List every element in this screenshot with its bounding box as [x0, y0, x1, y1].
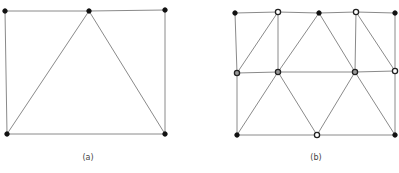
figure-b: (b) [233, 9, 398, 162]
edge [278, 72, 317, 135]
node-filled-icon [393, 11, 397, 15]
edge [89, 10, 165, 11]
figure-b-caption: (b) [310, 153, 321, 162]
figure-a-edges [5, 10, 165, 134]
edge [355, 12, 356, 72]
edge [235, 13, 237, 73]
node-gray-icon [352, 69, 357, 74]
node-filled-icon [87, 9, 91, 13]
node-filled-icon [5, 132, 9, 136]
edge [5, 11, 7, 134]
edge [278, 12, 319, 13]
edge [319, 12, 356, 13]
edge [237, 72, 278, 135]
edge [278, 13, 319, 72]
edge [237, 12, 278, 73]
edge [355, 72, 395, 135]
edge [235, 12, 278, 13]
figure-b-edges [235, 12, 395, 135]
node-open-icon [275, 9, 280, 14]
node-gray-icon [275, 69, 280, 74]
node-filled-icon [317, 11, 321, 15]
figure-a: (a) [3, 8, 167, 162]
edge [355, 71, 395, 72]
figure-a-nodes [3, 8, 167, 136]
diagram-canvas: (a) (b) [0, 0, 399, 173]
edge [89, 11, 165, 134]
figure-a-caption: (a) [82, 153, 93, 162]
node-open-icon [392, 68, 397, 73]
edge [237, 72, 278, 73]
edge [317, 72, 355, 135]
node-filled-icon [163, 132, 167, 136]
edge [356, 12, 395, 71]
edge [319, 13, 355, 72]
node-filled-icon [3, 9, 7, 13]
edge [356, 12, 395, 13]
node-filled-icon [233, 11, 237, 15]
node-gray-icon [234, 70, 239, 75]
node-filled-icon [163, 8, 167, 12]
node-filled-icon [235, 133, 239, 137]
edge [7, 11, 89, 134]
figure-b-nodes [233, 9, 398, 137]
node-open-icon [314, 132, 319, 137]
node-filled-icon [393, 133, 397, 137]
node-open-icon [353, 9, 358, 14]
